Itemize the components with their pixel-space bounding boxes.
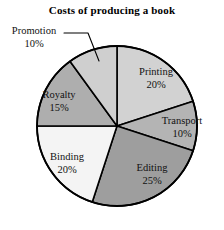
pie-label-royalty-name: Royalty <box>30 89 88 102</box>
pie-label-promotion-name: Promotion <box>2 25 66 38</box>
pie-label-promotion: Promotion 10% <box>2 25 66 50</box>
pie-label-printing: Printing 20% <box>126 66 186 91</box>
pie-label-binding-name: Binding <box>36 151 98 164</box>
pie-label-transport-name: Transport <box>146 115 218 128</box>
pie-label-editing-name: Editing <box>123 162 181 175</box>
pie-label-promotion-value: 10% <box>2 38 66 51</box>
pie-label-printing-name: Printing <box>126 66 186 79</box>
pie-chart-figure: Costs of producing a book Printing 20% T… <box>0 0 224 230</box>
pie-label-royalty: Royalty 15% <box>30 89 88 114</box>
pie-label-transport-value: 10% <box>146 128 218 141</box>
pie-label-transport: Transport 10% <box>146 115 218 140</box>
pie-label-binding: Binding 20% <box>36 151 98 176</box>
pie-label-binding-value: 20% <box>36 164 98 177</box>
pie-label-royalty-value: 15% <box>30 102 88 115</box>
pie-label-editing-value: 25% <box>123 175 181 188</box>
pie-label-printing-value: 20% <box>126 79 186 92</box>
pie-label-editing: Editing 25% <box>123 162 181 187</box>
